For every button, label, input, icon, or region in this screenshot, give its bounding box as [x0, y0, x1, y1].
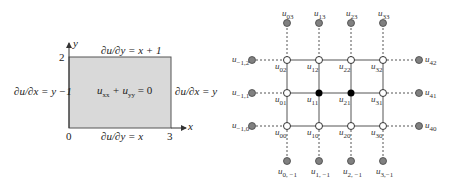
node-label: u03 — [282, 9, 294, 18]
node-label: u21 — [339, 95, 351, 104]
node-label: u33 — [378, 9, 390, 18]
node-label: u−1,1 — [232, 88, 249, 97]
laplace-equation: uxx + uyy = 0 — [97, 85, 152, 96]
node-label: u13 — [314, 9, 326, 18]
tick-x-3: 3 — [167, 131, 173, 142]
node-label: u42 — [425, 55, 437, 64]
node-label: u1, −1 — [311, 167, 330, 176]
node-label: u12 — [307, 62, 319, 71]
node-label: u00 — [275, 128, 287, 137]
node-label: u22 — [339, 62, 351, 71]
node-label: u20 — [339, 128, 351, 137]
grid-lines — [287, 60, 383, 126]
left-boundary-condition: ∂u/∂x = y −1 — [14, 86, 72, 97]
node-label: u11 — [307, 95, 318, 104]
node-label: u2, −1 — [343, 167, 362, 176]
node-label: u40 — [425, 121, 437, 130]
bottom-boundary-condition: ∂u/∂y = x — [101, 131, 143, 142]
top-boundary-condition: ∂u/∂y = x + 1 — [101, 45, 162, 56]
node-label: u3,−1 — [376, 167, 393, 176]
node-label: u32 — [371, 62, 383, 71]
tick-x-0: 0 — [66, 131, 72, 142]
node-label: u41 — [425, 88, 437, 97]
node-label: u0, −1 — [278, 167, 297, 176]
node-label: u31 — [371, 95, 383, 104]
node-label: u−1,2 — [232, 55, 249, 64]
tick-y-2: 2 — [59, 52, 65, 63]
ghost-nodes — [249, 20, 423, 165]
node-label: u02 — [275, 62, 287, 71]
node-label: u−1,0 — [232, 121, 249, 130]
right-boundary-condition: ∂u/∂x = y — [175, 86, 217, 97]
node-label: u30 — [371, 128, 383, 137]
node-label: u23 — [346, 9, 358, 18]
node-label: u10 — [307, 128, 319, 137]
node-label: u01 — [275, 95, 287, 104]
y-axis-label: y — [73, 38, 78, 49]
x-axis-label: x — [188, 121, 193, 132]
